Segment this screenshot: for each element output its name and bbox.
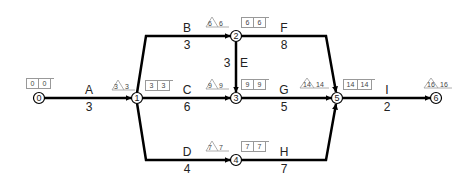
activity-E-duration: 3: [224, 57, 231, 69]
node-2-box-value-1: 6: [242, 18, 253, 27]
node-0-box-value-2: 0: [38, 79, 50, 88]
activity-D-duration: 4: [184, 163, 191, 175]
node-1-box-value-2: 3: [157, 81, 169, 90]
node-2-time-box: 6 6: [241, 17, 266, 28]
activity-H-duration: 7: [281, 163, 288, 175]
node-4-box-value-1: 7: [242, 142, 253, 151]
node-3-label: 3: [233, 94, 238, 103]
node-2-box-value-2: 6: [253, 18, 265, 27]
node-1-label: 1: [134, 94, 139, 103]
activity-G-duration: 5: [281, 101, 288, 113]
node-1-triangle-value: 3: [114, 83, 118, 90]
node-0-box-value-1: 0: [27, 79, 38, 88]
node-4-box-value-2: 7: [253, 142, 265, 151]
activity-H-name: H: [280, 146, 289, 158]
node-5-triangle-value-2: 14: [316, 81, 324, 88]
node-3-time-box: 9 9: [241, 79, 266, 90]
node-2-label: 2: [233, 32, 238, 41]
node-4-triangle-value: 7: [208, 144, 212, 151]
node-1-time-box: 3 3: [145, 80, 170, 91]
node-6-label: 6: [433, 94, 438, 103]
activity-G-name: G: [279, 84, 288, 96]
activity-D-name: D: [183, 146, 192, 158]
node-6-triangle-value: 16: [427, 81, 435, 88]
node-5-box-value-2: 14: [357, 80, 371, 89]
node-3-box-value-2: 9: [253, 80, 265, 89]
network-diagram: 0 1 2 3 4 5 6 A 3 B 3 C 6 D 4 E 3 F 8 G …: [0, 0, 473, 182]
node-5-label: 5: [334, 94, 339, 103]
activity-B-duration: 3: [184, 39, 191, 51]
node-1-box-value-1: 3: [146, 81, 157, 90]
node-2-triangle-value: 6: [208, 20, 212, 27]
node-5-triangle-value: 14: [303, 81, 311, 88]
activity-C-name: C: [183, 84, 192, 96]
node-5-box-value-1: 14: [344, 80, 357, 89]
activity-A-duration: 3: [86, 101, 93, 113]
node-2-triangle-value-2: 6: [219, 20, 223, 27]
activity-I-duration: 2: [384, 101, 391, 113]
node-0-time-box: 0 0: [26, 78, 51, 89]
activity-A-name: A: [85, 84, 93, 96]
activity-F-duration: 8: [281, 39, 288, 51]
node-5-time-box: 14 14: [343, 79, 372, 90]
node-1-triangle-value-2: 3: [125, 83, 129, 90]
node-4-triangle-value-2: 7: [219, 144, 223, 151]
activity-E-name: E: [240, 57, 248, 69]
node-3-triangle-value: 9: [208, 82, 212, 89]
node-4-time-box: 7 7: [241, 141, 266, 152]
activity-B-name: B: [183, 22, 191, 34]
node-4-label: 4: [233, 156, 238, 165]
activity-C-duration: 6: [184, 101, 191, 113]
node-0-label: 0: [36, 94, 41, 103]
node-6-triangle-value-2: 16: [440, 81, 448, 88]
activity-I-name: I: [385, 84, 388, 96]
node-3-triangle-value-2: 9: [219, 82, 223, 89]
activity-F-name: F: [280, 22, 287, 34]
node-3-box-value-1: 9: [242, 80, 253, 89]
